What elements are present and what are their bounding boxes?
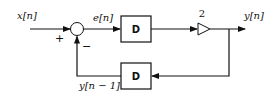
- gain-triangle-icon: [198, 23, 210, 35]
- input-signal: x[n]: [17, 10, 70, 29]
- feedback-label: y[n − 1]: [78, 80, 120, 91]
- output-label: y[n]: [243, 10, 264, 21]
- feedback-arrow: [152, 29, 229, 76]
- gain-block: 2: [198, 8, 210, 35]
- forward-delay-block: D: [121, 16, 151, 42]
- block-diagram: x[n] + − e[n] D 2 y[n] D y[n − 1]: [0, 0, 271, 97]
- error-label: e[n]: [93, 12, 113, 23]
- feedback-delay-block: D: [121, 63, 151, 89]
- feedback-path: [152, 29, 229, 76]
- summing-junction: + −: [55, 23, 91, 54]
- output-signal: y[n]: [210, 10, 264, 29]
- summing-junction-circle: [71, 23, 84, 36]
- minus-sign: −: [82, 40, 91, 53]
- feedback-delay-label: D: [132, 71, 140, 82]
- plus-sign: +: [55, 32, 64, 45]
- error-signal: e[n]: [84, 12, 121, 29]
- gain-label: 2: [199, 8, 205, 19]
- input-label: x[n]: [17, 10, 37, 21]
- forward-delay-label: D: [132, 24, 140, 35]
